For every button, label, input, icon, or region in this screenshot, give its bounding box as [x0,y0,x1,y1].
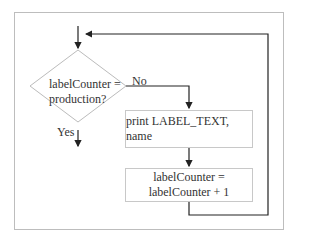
increment-process-box: labelCounter = labelCounter + 1 [125,168,253,202]
increment-line-2: labelCounter + 1 [149,185,230,200]
decision-line-1: labelCounter = [49,77,121,92]
no-branch-arrow [126,86,189,108]
increment-line-1: labelCounter = [153,170,225,185]
no-label: No [132,74,147,88]
decision-line-2: production? [49,92,121,107]
print-process-box: print LABEL_TEXT, name [125,110,253,148]
print-process-text: print LABEL_TEXT, name [126,114,252,144]
decision-label: labelCounter = production? [49,77,121,107]
yes-label: Yes [57,125,74,139]
